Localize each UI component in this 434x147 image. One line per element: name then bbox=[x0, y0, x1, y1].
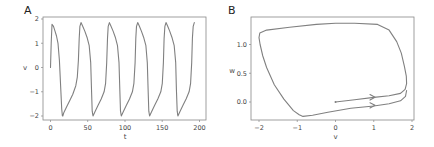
panel-b-xtick: 2 bbox=[410, 124, 414, 132]
panel-b-xtick: −1 bbox=[292, 124, 302, 132]
arrow-icon bbox=[370, 103, 375, 108]
panel-b-xtick: 0 bbox=[333, 124, 337, 132]
panel-a-y-ticks: 2 1 0 −1 −2 bbox=[29, 15, 43, 120]
panel-a-ylabel: v bbox=[23, 64, 27, 72]
panel-a-voltage-trace bbox=[51, 23, 195, 116]
panel-a-xlabel: t bbox=[124, 133, 127, 141]
panel-b-xtick: 1 bbox=[372, 124, 376, 132]
panel-b-axes-frame bbox=[251, 17, 414, 120]
panel-b-xtick: −2 bbox=[254, 124, 264, 132]
panel-a-ytick: −2 bbox=[29, 112, 39, 120]
panel-a-xtick: 50 bbox=[84, 124, 92, 132]
panel-a: A 2 1 0 −1 −2 0 50 100 150 200 bbox=[23, 4, 206, 141]
panel-a-label: A bbox=[24, 4, 32, 17]
panel-a-xtick: 0 bbox=[48, 124, 52, 132]
panel-a-ytick: 1 bbox=[35, 40, 39, 48]
panel-b-x-ticks: −2 −1 0 1 2 bbox=[254, 120, 414, 132]
panel-b-y-ticks: 1.0 0.5 0.0 bbox=[237, 41, 251, 107]
panel-a-ytick: 2 bbox=[35, 15, 39, 23]
panel-b-ytick: 0.5 bbox=[237, 70, 247, 78]
panel-b-phase-trajectory bbox=[259, 23, 407, 116]
panel-b: B 1.0 0.5 0.0 −2 −1 0 1 2 v w bbox=[228, 4, 414, 141]
panel-b-start-point bbox=[335, 101, 337, 103]
panel-b-ylabel: w bbox=[229, 67, 235, 75]
panel-b-label: B bbox=[228, 4, 236, 17]
panel-a-x-ticks: 0 50 100 150 200 bbox=[48, 120, 205, 132]
panel-a-xtick: 100 bbox=[119, 124, 131, 132]
figure: A 2 1 0 −1 −2 0 50 100 150 200 bbox=[0, 0, 434, 147]
panel-b-ytick: 0.0 bbox=[237, 98, 247, 106]
panel-b-ytick: 1.0 bbox=[237, 41, 247, 49]
panel-a-ytick: −1 bbox=[29, 88, 39, 96]
panel-b-xlabel: v bbox=[333, 133, 337, 141]
panel-a-xtick: 150 bbox=[156, 124, 168, 132]
panel-a-xtick: 200 bbox=[193, 124, 205, 132]
panel-a-ytick: 0 bbox=[35, 64, 39, 72]
